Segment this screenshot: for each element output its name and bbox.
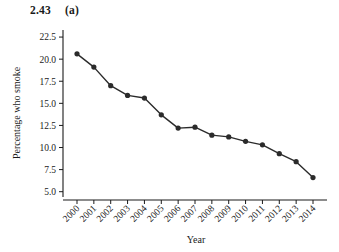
y-tick-label: 17.5 (39, 77, 56, 87)
data-point (277, 151, 282, 156)
x-tick-label: 2005 (145, 203, 166, 224)
y-tick-label: 22.5 (39, 32, 56, 42)
x-tick-label: 2010 (229, 203, 250, 224)
x-tick-label: 2007 (179, 203, 200, 224)
data-point (91, 65, 96, 70)
y-tick-label: 10.0 (39, 143, 56, 153)
x-tick-label: 2003 (111, 203, 132, 224)
data-point (125, 93, 130, 98)
x-tick-label: 2013 (280, 203, 301, 224)
data-point (243, 139, 248, 144)
data-point (310, 175, 315, 180)
data-point (176, 125, 181, 130)
x-tick-label: 2001 (78, 203, 99, 224)
data-point (260, 142, 265, 147)
data-point (159, 112, 164, 117)
x-axis: 2000200120022003200420052006200720082009… (61, 200, 327, 224)
data-point (192, 125, 197, 130)
y-tick-label: 15.0 (39, 99, 56, 109)
x-tick-label: 2004 (128, 203, 149, 224)
data-point (74, 51, 79, 56)
data-series (74, 51, 315, 180)
x-tick-label: 2002 (95, 203, 116, 224)
y-axis: 22.520.017.515.012.510.07.55.0 (39, 30, 63, 197)
x-axis-title: Year (187, 234, 206, 245)
y-axis-title: Percentage who smoke (11, 66, 22, 159)
x-tick-label: 2012 (263, 203, 284, 224)
data-point (209, 133, 214, 138)
x-axis-ticks: 2000200120022003200420052006200720082009… (61, 200, 318, 224)
y-tick-label: 20.0 (39, 55, 56, 65)
figure-container: 2.43 (a) 22.520.017.515.012.510.07.55.0 … (0, 0, 339, 252)
x-tick-label: 2009 (213, 203, 234, 224)
y-axis-ticks: 22.520.017.515.012.510.07.55.0 (39, 32, 63, 197)
data-point (226, 134, 231, 139)
y-tick-label: 7.5 (44, 165, 56, 175)
x-tick-label: 2014 (297, 203, 318, 224)
x-tick-label: 2006 (162, 203, 183, 224)
y-tick-label: 12.5 (39, 121, 56, 131)
series-line (77, 54, 313, 178)
data-point (108, 83, 113, 88)
data-point (294, 159, 299, 164)
data-point (142, 95, 147, 100)
x-tick-label: 2000 (61, 203, 82, 224)
y-tick-label: 5.0 (44, 187, 56, 197)
x-tick-label: 2008 (196, 203, 217, 224)
series-markers (74, 51, 315, 180)
x-tick-label: 2011 (247, 203, 267, 223)
line-chart: 22.520.017.515.012.510.07.55.0 200020012… (0, 0, 339, 252)
